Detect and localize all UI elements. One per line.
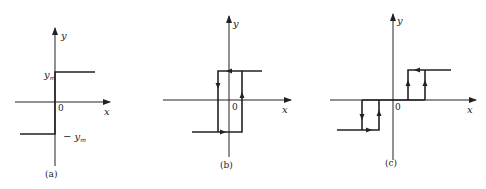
origin-label: 0: [58, 103, 64, 113]
arrow-up-icon: [423, 80, 428, 86]
arrow-left-icon: [414, 68, 420, 73]
panel-c: y x 0 (c): [330, 14, 476, 168]
arrow-up-icon: [377, 110, 382, 116]
positive-loop: [408, 70, 451, 100]
relay-characteristics-figure: y x 0 ym − ym (a) y x 0 (b): [0, 0, 486, 189]
caption-c: (c): [385, 158, 397, 168]
negative-loop: [337, 100, 379, 130]
y-axis-label: y: [232, 18, 239, 29]
x-axis-label: x: [282, 104, 288, 115]
panel-b: y x 0 (b): [163, 16, 291, 170]
y-axis-label: y: [60, 30, 67, 41]
origin-label: 0: [395, 102, 401, 112]
arrow-right-icon: [220, 130, 226, 135]
panel-a: y x 0 ym − ym (a): [15, 28, 110, 179]
arrow-up-icon: [240, 92, 245, 98]
hysteresis-loop-return: [218, 71, 242, 132]
y-axis-label: y: [396, 15, 403, 26]
ym-label: ym: [43, 69, 56, 81]
arrow-right-icon: [366, 128, 372, 133]
caption-b: (b): [220, 160, 233, 170]
neg-ym-label: − ym: [63, 131, 86, 143]
x-axis-label: x: [467, 104, 473, 115]
arrow-down-icon: [216, 83, 221, 89]
origin-label: 0: [232, 102, 238, 112]
x-axis-label: x: [104, 106, 110, 117]
arrow-down-icon: [360, 114, 365, 120]
arrow-up-icon: [406, 80, 411, 86]
hysteresis-loop: [192, 71, 262, 132]
caption-a: (a): [45, 169, 57, 179]
